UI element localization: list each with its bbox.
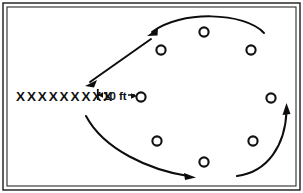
player-circle-dimension-end [136, 92, 145, 101]
field-formation-diagram: XXXXXXXXX 10 ft [0, 0, 303, 193]
player-circle-bottom-center [199, 157, 208, 166]
player-circle-lower-left [152, 136, 161, 145]
diagram-canvas: XXXXXXXXX 10 ft [0, 0, 303, 193]
player-circle-right [266, 93, 275, 102]
motion-arrow-bottom-arc-head [184, 173, 196, 180]
x-mark-row: XXXXXXXXX [16, 89, 114, 104]
dimension-label: 10 ft [103, 90, 127, 102]
motion-arrow-diagonal [90, 39, 151, 82]
motion-arrow-right-arc-head [283, 103, 291, 115]
player-circle-upper-right [246, 45, 255, 54]
player-circle-upper-left [156, 45, 165, 54]
motion-arrow-bottom-arc [86, 116, 188, 176]
player-circle-top-center [199, 27, 208, 36]
player-circle-lower-right [248, 136, 257, 145]
motion-arrow-top-arc-head [147, 28, 158, 36]
motion-arrow-right-arc [237, 112, 287, 176]
